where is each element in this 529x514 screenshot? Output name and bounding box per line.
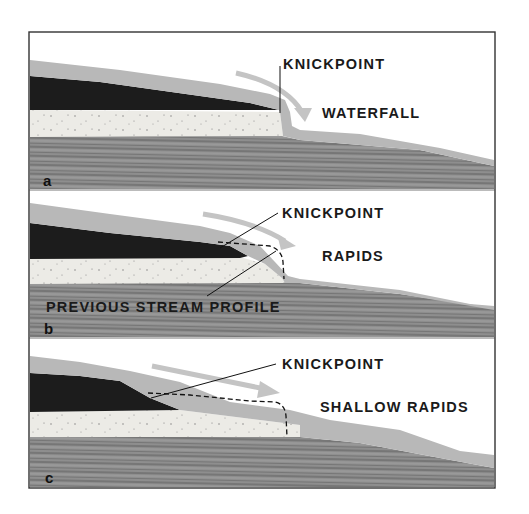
panel-letter-a: a <box>43 172 52 189</box>
knickpoint-diagram: KNICKPOINT WATERFALL a KNICKPOINT RAPIDS… <box>0 0 529 514</box>
panel-letter-c: c <box>45 469 53 486</box>
feature-label-rapids: RAPIDS <box>322 248 384 264</box>
knickpoint-label-b: KNICKPOINT <box>282 205 384 221</box>
feature-label-shallow-rapids: SHALLOW RAPIDS <box>320 399 469 415</box>
feature-label-waterfall: WATERFALL <box>322 105 420 121</box>
knickpoint-label-a: KNICKPOINT <box>283 56 385 72</box>
knickpoint-label-c: KNICKPOINT <box>282 356 384 372</box>
previous-stream-profile-label: PREVIOUS STREAM PROFILE <box>46 299 281 315</box>
panel-letter-b: b <box>44 320 53 337</box>
